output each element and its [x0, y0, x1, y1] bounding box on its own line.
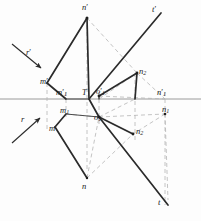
label-m-prime: m′ — [40, 77, 48, 86]
dash-n-n2lower — [87, 134, 133, 178]
edge-m1-m — [55, 114, 66, 127]
vertex-markers — [86, 17, 167, 180]
dash-n-o1 — [87, 117, 99, 178]
vertex-n-prime — [86, 17, 89, 20]
label-o1: o1 — [94, 113, 101, 122]
label-r: r — [21, 115, 24, 124]
label-m: m — [49, 124, 55, 133]
edge-mprime-nprime — [47, 18, 87, 83]
label-T: T — [82, 88, 87, 97]
label-n-prime: n′ — [82, 3, 88, 12]
label-n1-prime: n′1 — [157, 88, 166, 97]
label-t-prime: t′ — [152, 5, 156, 14]
label-n2-upper: n2 — [139, 67, 146, 76]
label-t: t — [158, 198, 160, 207]
edge-nprime-T — [87, 18, 89, 99]
dash-n1-down — [165, 114, 168, 200]
edge-o1-n2lower — [99, 117, 133, 134]
dash-nprime-o1prime — [87, 18, 137, 73]
figure-canvas: n′ t′ r′ m′ m′1 T o′1 n2 n′1 r m1 m o1 n… — [0, 0, 201, 221]
label-o1-prime: o′1 — [96, 87, 105, 96]
label-m1-prime: m′1 — [56, 88, 67, 97]
label-n1: n1 — [162, 105, 169, 114]
dash-o1-n1 — [99, 114, 165, 117]
vertex-n2-lower — [132, 133, 135, 136]
line-t — [99, 117, 168, 205]
label-r-prime: r′ — [26, 48, 31, 57]
edge-m-n — [55, 127, 87, 178]
dash-o1-n2up — [99, 99, 135, 117]
geometry-diagram — [0, 0, 201, 221]
arrow-r — [12, 118, 40, 143]
label-n: n — [82, 182, 86, 191]
vertex-n — [86, 177, 88, 179]
vertex-n2-upper — [136, 72, 139, 75]
label-m1: m1 — [60, 106, 69, 115]
label-n2-lower: n2 — [136, 127, 143, 136]
direction-arrows — [12, 44, 41, 143]
